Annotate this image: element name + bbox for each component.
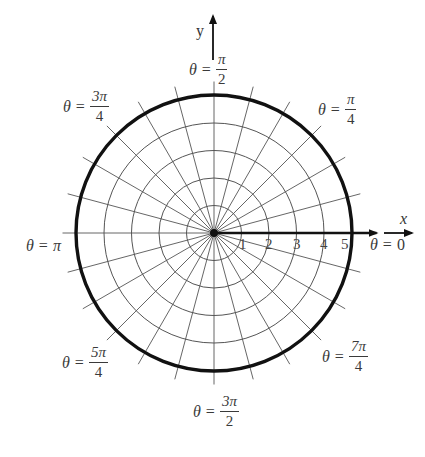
angle-label-3pi-4: θ= 3π4	[63, 89, 109, 124]
spoke-285deg	[214, 233, 253, 379]
spoke-75deg	[214, 87, 253, 233]
radial-tick-2: 2	[265, 236, 273, 253]
spoke-60deg	[214, 102, 290, 233]
angle-label-pi-4: θ= π4	[318, 92, 356, 127]
angle-label-pi-2: θ= π2	[189, 52, 227, 87]
fraction: 3π2	[220, 394, 239, 429]
spoke-255deg	[175, 233, 214, 379]
spoke-105deg	[175, 87, 214, 233]
spoke-15deg	[214, 194, 360, 233]
angle-label-0: θ=0	[370, 236, 405, 254]
fraction: 5π4	[89, 345, 108, 380]
angle-label-7pi-4: θ= 7π4	[322, 339, 368, 374]
pole-point	[210, 229, 218, 237]
radial-tick-3: 3	[293, 236, 301, 253]
spoke-240deg	[138, 233, 214, 364]
fraction: 3π4	[90, 89, 109, 124]
angle-label-pi: θ=π	[26, 237, 61, 255]
fraction: π4	[345, 92, 357, 127]
spoke-210deg	[83, 233, 214, 309]
spoke-120deg	[138, 102, 214, 233]
radial-tick-4: 4	[320, 236, 328, 253]
radial-tick-1: 1	[239, 236, 247, 253]
spoke-300deg	[214, 233, 290, 364]
spoke-150deg	[83, 157, 214, 233]
y-axis-label: y	[196, 22, 204, 40]
angle-label-3pi-2: θ= 3π2	[193, 394, 239, 429]
spoke-165deg	[68, 194, 214, 233]
spoke-225deg	[107, 233, 214, 340]
x-axis-label: x	[400, 210, 407, 228]
spoke-45deg	[214, 126, 321, 233]
spoke-345deg	[214, 233, 360, 272]
fraction: π2	[216, 52, 228, 87]
radial-tick-5: 5	[341, 236, 349, 253]
fraction: 7π4	[349, 339, 368, 374]
spoke-30deg	[214, 157, 345, 233]
spoke-135deg	[107, 126, 214, 233]
angle-label-5pi-4: θ= 5π4	[62, 345, 108, 380]
spoke-195deg	[68, 233, 214, 272]
